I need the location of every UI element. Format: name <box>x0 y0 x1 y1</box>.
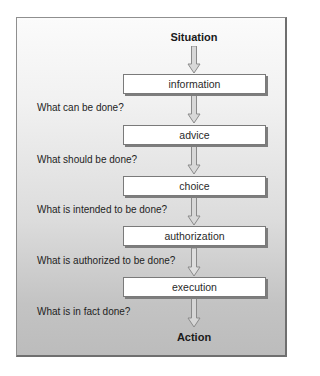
arrow-down-icon <box>186 46 202 74</box>
question-label: What is intended to be done? <box>37 204 167 215</box>
arrow-down-icon <box>186 95 202 124</box>
arrow-down-icon <box>186 248 202 277</box>
arrow-down-icon <box>186 298 202 328</box>
stage-box-information: information <box>123 74 266 94</box>
stage-box-advice: advice <box>123 125 266 145</box>
start-label-situation: Situation <box>144 31 244 43</box>
arrow-down-icon <box>186 197 202 226</box>
stage-box-execution: execution <box>123 277 266 297</box>
stage-box-choice: choice <box>123 176 266 196</box>
end-label-action: Action <box>144 331 244 343</box>
question-label: What is authorized to be done? <box>37 255 175 266</box>
question-label: What is in fact done? <box>37 306 130 317</box>
arrow-down-icon <box>186 146 202 175</box>
stage-box-authorization: authorization <box>123 226 266 246</box>
question-label: What should be done? <box>37 154 137 165</box>
question-label: What can be done? <box>37 102 124 113</box>
